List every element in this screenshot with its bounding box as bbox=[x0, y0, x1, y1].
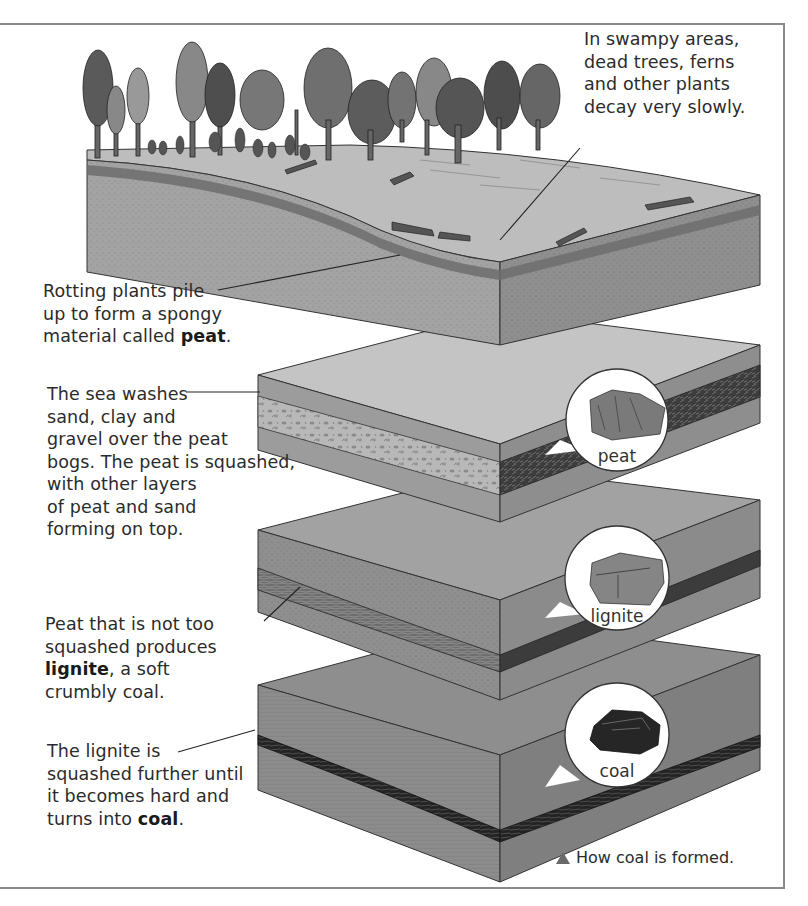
coal-line-3: it becomes hard and bbox=[47, 785, 287, 808]
lignite-line-2: squashed produces bbox=[45, 636, 285, 659]
sea-line-4: bogs. The peat is squashed, bbox=[47, 451, 327, 474]
rotting-line-1: Rotting plants pile bbox=[43, 280, 283, 303]
caption-text: How coal is formed. bbox=[576, 848, 734, 867]
lignite-line-3: lignite, a soft bbox=[45, 658, 285, 681]
swamp-description: In swampy areas, dead trees, ferns and o… bbox=[584, 28, 784, 118]
sea-line-7: forming on top. bbox=[47, 518, 327, 541]
rotting-line-3-text: material called bbox=[43, 326, 181, 346]
lignite-line-3-text: , a soft bbox=[109, 659, 170, 679]
forest-trees bbox=[83, 42, 560, 163]
swamp-line-2: dead trees, ferns bbox=[584, 51, 784, 74]
term-coal: coal bbox=[138, 809, 179, 829]
coal-line-4: turns into coal. bbox=[47, 808, 287, 831]
coal-line-2: squashed further until bbox=[47, 763, 287, 786]
sea-line-2: sand, clay and bbox=[47, 406, 327, 429]
circle-label-coal: coal bbox=[600, 761, 635, 781]
sea-line-6: of peat and sand bbox=[47, 496, 327, 519]
figure-caption: How coal is formed. bbox=[556, 848, 734, 867]
term-lignite: lignite bbox=[45, 659, 109, 679]
lignite-description: Peat that is not too squashed produces l… bbox=[45, 613, 285, 703]
swamp-line-4: decay very slowly. bbox=[584, 96, 784, 119]
rotting-line-2: up to form a spongy bbox=[43, 303, 283, 326]
lignite-line-4: crumbly coal. bbox=[45, 681, 285, 704]
circle-label-lignite: lignite bbox=[591, 606, 644, 626]
term-peat: peat bbox=[181, 326, 226, 346]
coal-line-1: The lignite is bbox=[47, 740, 287, 763]
lignite-sample-icon bbox=[590, 553, 664, 605]
rotting-line-3-period: . bbox=[226, 326, 232, 346]
circle-label-peat: peat bbox=[598, 446, 637, 466]
sea-line-5: with other layers bbox=[47, 473, 327, 496]
sea-line-1: The sea washes bbox=[47, 383, 327, 406]
rotting-line-3: material called peat. bbox=[43, 325, 283, 348]
swamp-line-3: and other plants bbox=[584, 73, 784, 96]
sea-washes-description: The sea washes sand, clay and gravel ove… bbox=[47, 383, 327, 541]
triangle-marker-icon bbox=[556, 852, 570, 864]
sea-line-3: gravel over the peat bbox=[47, 428, 327, 451]
coal-description: The lignite is squashed further until it… bbox=[47, 740, 287, 830]
swamp-line-1: In swampy areas, bbox=[584, 28, 784, 51]
coal-line-4-period: . bbox=[178, 809, 184, 829]
lignite-line-1: Peat that is not too bbox=[45, 613, 285, 636]
coal-line-4-text: turns into bbox=[47, 809, 138, 829]
rotting-plants-description: Rotting plants pile up to form a spongy … bbox=[43, 280, 283, 348]
